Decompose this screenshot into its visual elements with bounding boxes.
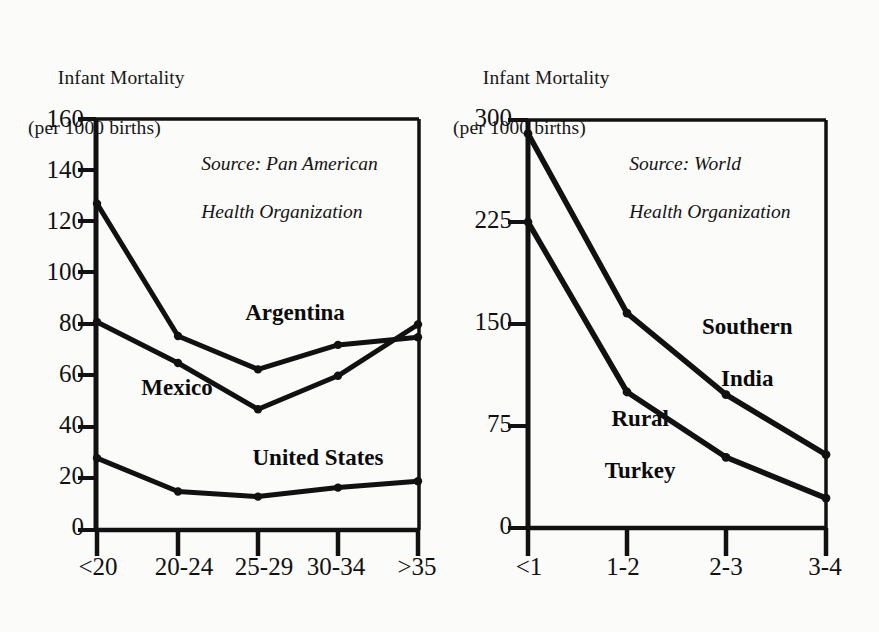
left-series-united-states: [93, 454, 422, 501]
right-series-rural-turkey: [524, 218, 831, 503]
left-plot-area: [0, 0, 440, 632]
left-xtick-marks: [97, 530, 418, 556]
left-ytick-marks: [78, 119, 96, 530]
left-axis-frame: [96, 119, 419, 530]
right-xtick-marks: [528, 528, 826, 556]
chart-panel-left: Infant Mortality (per 1000 births) 160 1…: [0, 0, 440, 632]
right-axis-frame: [528, 120, 826, 528]
figure-canvas: Infant Mortality (per 1000 births) 160 1…: [0, 0, 879, 632]
right-ytick-marks: [508, 120, 528, 528]
chart-panel-right: Infant Mortality (per 1000 births) 300 2…: [440, 0, 879, 632]
right-plot-area: [440, 0, 879, 632]
